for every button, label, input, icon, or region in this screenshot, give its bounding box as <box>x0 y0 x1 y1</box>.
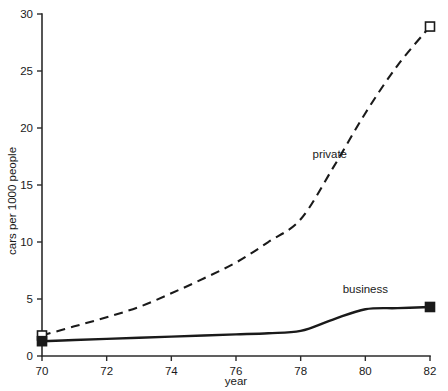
y-tick-label: 10 <box>20 236 33 248</box>
y-axis: 051015202530 cars per 1000 people <box>6 8 42 362</box>
y-tick-label: 30 <box>20 8 33 20</box>
y-tick-label: 25 <box>20 65 33 77</box>
x-axis: 70727476788082 year <box>36 356 437 387</box>
series-annotation-business: business <box>343 283 389 295</box>
y-tick-label: 15 <box>20 179 33 191</box>
y-tick-label: 0 <box>27 350 33 362</box>
x-axis-title: year <box>225 375 248 387</box>
x-tick-label: 70 <box>36 365 49 377</box>
annotation-layer: privatebusiness <box>313 148 389 296</box>
marker-private <box>426 22 435 31</box>
series-annotation-private: private <box>313 148 348 160</box>
x-tick-label: 72 <box>100 365 113 377</box>
y-tick-group: 051015202530 <box>20 8 42 362</box>
y-axis-title: cars per 1000 people <box>6 147 18 255</box>
x-tick-label: 82 <box>424 365 437 377</box>
marker-layer <box>38 22 435 346</box>
chart-container: 051015202530 cars per 1000 people 707274… <box>0 0 448 391</box>
line-chart: 051015202530 cars per 1000 people 707274… <box>0 0 448 391</box>
x-tick-label: 78 <box>294 365 307 377</box>
x-tick-group: 70727476788082 <box>36 356 437 377</box>
y-tick-label: 5 <box>27 293 33 305</box>
x-tick-label: 74 <box>165 365 178 377</box>
marker-business <box>38 337 47 346</box>
marker-business <box>426 302 435 311</box>
series-line-business <box>42 307 430 341</box>
x-tick-label: 80 <box>359 365 372 377</box>
y-tick-label: 20 <box>20 122 33 134</box>
